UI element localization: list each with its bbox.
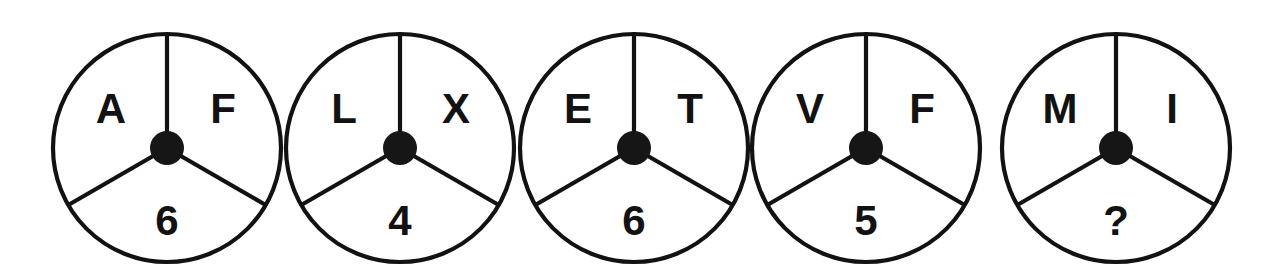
wheel-bottom-value: 6	[622, 197, 645, 244]
wheel-top-left-letter: A	[96, 85, 126, 132]
wheel-hub	[1099, 131, 1133, 165]
wheel-top-right-letter: F	[210, 85, 236, 132]
wheel-top-right-letter: X	[442, 85, 470, 132]
wheel-graphic: ET6	[514, 28, 754, 268]
wheel-graphic: VF5	[746, 28, 986, 268]
puzzle-wheel: MI?	[996, 28, 1236, 268]
puzzle-board: AF6LX4ET6VF5MI?	[0, 0, 1287, 276]
wheel-top-left-letter: E	[564, 85, 592, 132]
wheel-bottom-value: ?	[1103, 197, 1129, 244]
wheel-hub	[150, 131, 184, 165]
puzzle-wheel: AF6	[47, 28, 287, 268]
wheel-top-left-letter: L	[331, 85, 357, 132]
wheel-bottom-value: 6	[155, 197, 178, 244]
wheel-hub	[849, 131, 883, 165]
wheel-graphic: MI?	[996, 28, 1236, 268]
wheel-bottom-value: 4	[388, 197, 412, 244]
wheel-top-right-letter: F	[909, 85, 935, 132]
wheel-top-left-letter: V	[796, 85, 824, 132]
wheel-top-right-letter: T	[677, 85, 703, 132]
wheel-graphic: LX4	[280, 28, 520, 268]
wheel-top-left-letter: M	[1043, 85, 1078, 132]
puzzle-wheel: ET6	[514, 28, 754, 268]
wheel-hub	[383, 131, 417, 165]
wheel-hub	[617, 131, 651, 165]
puzzle-wheel: VF5	[746, 28, 986, 268]
wheel-top-right-letter: I	[1166, 85, 1178, 132]
wheel-bottom-value: 5	[854, 197, 877, 244]
wheel-graphic: AF6	[47, 28, 287, 268]
puzzle-wheel: LX4	[280, 28, 520, 268]
